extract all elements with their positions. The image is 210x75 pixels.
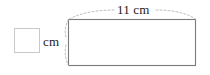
width-leader-right	[156, 10, 196, 19]
height-unit-label: cm	[43, 35, 59, 48]
height-answer-box[interactable]	[14, 28, 40, 53]
geometry-figure: cm 11 cm	[0, 0, 210, 75]
rectangle-shape	[69, 20, 196, 66]
width-dimension-label: 11 cm	[117, 3, 150, 16]
width-leader-left	[70, 10, 115, 19]
